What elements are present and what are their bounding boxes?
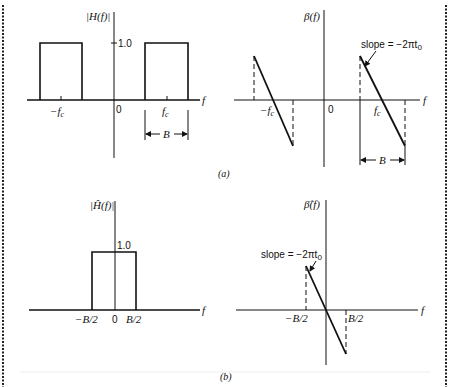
neg-fc-label: −fc bbox=[50, 105, 64, 119]
panel-a-magnitude-plot: |H(f)| 1.0 f −fc 0 fc B bbox=[27, 10, 207, 158]
y-axis-label: |Ĥ(f)| bbox=[90, 199, 114, 212]
pos-half-bw-label: B/2 bbox=[348, 312, 364, 324]
x-axis-label: f bbox=[423, 94, 428, 106]
level-label: 1.0 bbox=[118, 38, 132, 49]
y-axis-label: β(f) bbox=[303, 10, 320, 23]
panel-a-phase-plot: β(f) f −fc 0 fc slope = −2πt0 B bbox=[234, 10, 428, 167]
panel-b-magnitude-plot: |Ĥ(f)| 1.0 f −B/2 0 B/2 bbox=[29, 199, 207, 325]
slope-label: slope = −2πt0 bbox=[361, 39, 422, 52]
neg-half-bw-label: −B/2 bbox=[285, 312, 308, 324]
pos-passband-rect bbox=[145, 43, 188, 100]
fc-label: fc bbox=[162, 105, 169, 119]
x-axis-label: f bbox=[202, 304, 207, 316]
panel-b-phase-plot: β̂(f) f −B/2 B/2 slope = −2πt0 bbox=[236, 198, 426, 365]
neg-fc-label: −fc bbox=[260, 104, 274, 118]
origin-label: 0 bbox=[116, 104, 122, 115]
pos-half-bw-label: B/2 bbox=[126, 313, 142, 325]
origin-label: 0 bbox=[112, 314, 118, 325]
slope-pointer-arrow bbox=[310, 261, 316, 271]
neg-phase-line bbox=[254, 56, 293, 146]
caption-a: (a) bbox=[218, 168, 230, 180]
bandwidth-label: B bbox=[379, 154, 386, 166]
baseband-rect bbox=[92, 252, 136, 310]
origin-label: 0 bbox=[328, 104, 334, 115]
fc-label: fc bbox=[374, 104, 381, 118]
pos-phase-line bbox=[360, 56, 405, 146]
x-axis-label: f bbox=[202, 94, 207, 106]
bandwidth-label: B bbox=[163, 128, 170, 140]
slope-pointer-arrow bbox=[365, 51, 376, 66]
neg-passband-rect bbox=[40, 43, 82, 100]
caption-b: (b) bbox=[220, 371, 232, 383]
neg-half-bw-label: −B/2 bbox=[75, 313, 98, 325]
level-label: 1.0 bbox=[117, 240, 131, 251]
figure-canvas: |H(f)| 1.0 f −fc 0 fc B β(f) f −fc 0 fc … bbox=[0, 0, 449, 387]
y-axis-label: |H(f)| bbox=[86, 10, 110, 23]
y-axis-label: β̂(f) bbox=[303, 198, 320, 211]
x-axis-label: f bbox=[421, 304, 426, 316]
slope-label: slope = −2πt0 bbox=[261, 249, 322, 262]
